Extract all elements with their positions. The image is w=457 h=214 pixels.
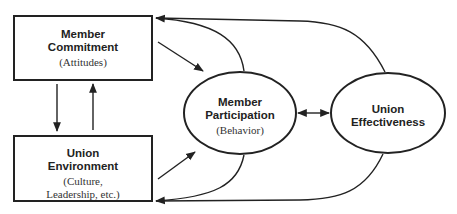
member-commitment-title-line1: Member	[14, 28, 152, 41]
member-commitment-title-line2: Commitment	[14, 41, 152, 54]
arrow-environment-to-participation	[158, 152, 195, 179]
member-commitment-label: Member Commitment (Attitudes)	[14, 28, 152, 69]
union-environment-subtitle-line1: (Culture,	[14, 175, 152, 188]
member-participation-label: Member Participation (Behavior)	[184, 96, 296, 137]
arrow-commitment-to-participation	[158, 42, 203, 71]
union-environment-label: Union Environment (Culture, Leadership, …	[14, 147, 152, 201]
member-participation-subtitle: (Behavior)	[184, 124, 296, 137]
union-effectiveness-title-line1: Union	[331, 103, 445, 116]
feedback-effectiveness-to-environment	[156, 154, 383, 201]
member-commitment-subtitle: (Attitudes)	[14, 56, 152, 69]
union-environment-subtitle-line2: Leadership, etc.)	[14, 188, 152, 201]
union-environment-title-line2: Environment	[14, 160, 152, 173]
feedback-participation-to-environment	[156, 155, 244, 201]
feedback-effectiveness-to-commitment	[156, 18, 385, 72]
feedback-participation-to-commitment	[156, 18, 244, 71]
union-effectiveness-title-line2: Effectiveness	[331, 116, 445, 129]
union-effectiveness-label: Union Effectiveness	[331, 103, 445, 129]
member-participation-title-line2: Participation	[184, 109, 296, 122]
member-participation-title-line1: Member	[184, 96, 296, 109]
union-environment-title-line1: Union	[14, 147, 152, 160]
